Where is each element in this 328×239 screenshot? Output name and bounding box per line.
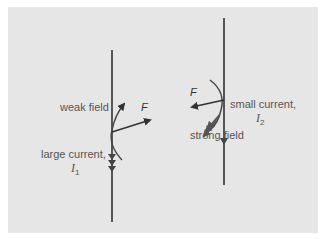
force-arrow-left-icon <box>112 120 150 132</box>
current-subscript: 2 <box>260 118 265 127</box>
weak-field-label: weak field <box>59 101 109 113</box>
large-current-arrows-icon <box>108 154 116 172</box>
large-current-label: large current, <box>41 148 106 160</box>
current-symbol-i1: I1 <box>70 161 80 177</box>
force-arrow-right-icon <box>192 100 224 107</box>
current-symbol-i2: I2 <box>255 111 265 127</box>
strong-field-label: strong field <box>190 129 244 141</box>
right-wire-group <box>192 18 228 185</box>
small-current-label: small current, <box>230 98 296 110</box>
diagram-canvas: weak field F large current, I1 F small c… <box>0 0 328 239</box>
force-label-right: F <box>190 86 198 98</box>
left-wire-group <box>108 50 150 222</box>
force-label-left: F <box>141 101 149 113</box>
current-subscript: 1 <box>75 168 80 177</box>
